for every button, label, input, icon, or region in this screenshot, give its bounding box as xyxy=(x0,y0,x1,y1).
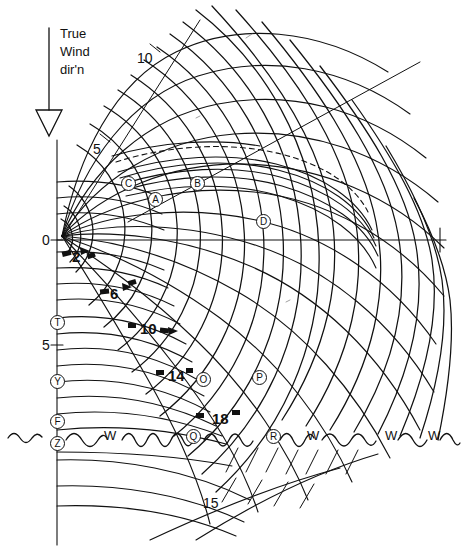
scan-artifacts xyxy=(196,34,290,302)
shoreline-w-3: W xyxy=(385,428,397,443)
ray-number-10: 10 xyxy=(140,320,157,338)
shoreline-w-4: W xyxy=(428,428,440,443)
beach-hatching xyxy=(222,448,358,508)
wave-refraction-figure: True Wind dir'n 0 5 10 5 15 2 6 10 14 18… xyxy=(0,0,462,548)
diagram-canvas xyxy=(0,0,462,548)
wind-direction-arrow xyxy=(36,28,62,136)
wave-crest-arcs xyxy=(61,10,319,492)
circled-label-Y: Y xyxy=(50,374,65,389)
wind-arrow-head xyxy=(36,110,62,136)
circled-label-Z: Z xyxy=(50,436,65,451)
circled-label-P: P xyxy=(252,370,267,385)
circled-label-O: O xyxy=(196,372,211,387)
ray-number-6: 6 xyxy=(110,285,118,303)
circled-label-T: T xyxy=(50,315,65,330)
ray-number-18: 18 xyxy=(212,410,229,428)
circled-label-Q: Q xyxy=(186,429,201,444)
axis-label-d-10: 10 xyxy=(137,50,153,67)
orthogonal-rays xyxy=(62,33,444,524)
wind-label-line3: dir'n xyxy=(60,62,84,77)
axis-label-v-5: 5 xyxy=(42,337,50,354)
circled-label-R: R xyxy=(266,429,281,444)
shoreline-w-1: W xyxy=(104,428,116,443)
wind-label-line2: Wind xyxy=(60,44,90,59)
axis-label-v-0: 0 xyxy=(42,232,50,249)
bathymetry-contours xyxy=(57,181,226,444)
axis-label-d-5: 5 xyxy=(93,141,101,158)
shoreline-baseline xyxy=(57,452,232,466)
circled-label-D: D xyxy=(256,214,271,229)
shoreline-w-2: W xyxy=(307,428,319,443)
circled-label-A: A xyxy=(148,192,163,207)
ray-number-2: 2 xyxy=(72,248,80,266)
ray-number-14: 14 xyxy=(168,367,185,385)
circled-label-F: F xyxy=(50,414,65,429)
circled-label-C: C xyxy=(121,176,136,191)
wind-label-line1: True xyxy=(60,26,86,41)
axis-lines xyxy=(57,140,446,545)
circled-label-B: B xyxy=(190,176,205,191)
axis-label-bottom-15: 15 xyxy=(203,495,219,512)
